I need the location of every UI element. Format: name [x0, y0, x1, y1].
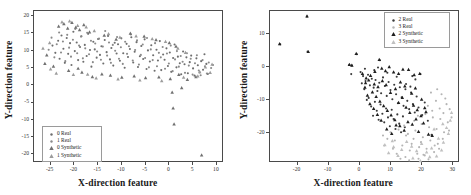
data-point-dot [68, 47, 70, 49]
data-point-triangle [109, 74, 113, 77]
data-point-triangle [52, 65, 56, 68]
data-point-dot [144, 57, 146, 59]
legend-label: 3 Real [399, 23, 413, 29]
data-point-dot [126, 53, 128, 55]
data-point-dot [395, 76, 397, 78]
legend-label: 2 Real [399, 16, 413, 22]
data-point-triangle [441, 122, 445, 125]
data-point-dot [372, 87, 374, 89]
legend-item[interactable]: 3 Synthetic [388, 37, 445, 44]
data-point-dot [381, 135, 383, 137]
data-point-dot [435, 128, 437, 130]
data-point-dot [195, 57, 197, 59]
data-point-triangle [72, 73, 76, 76]
data-point-dot [180, 55, 182, 57]
data-point-dot [152, 54, 154, 56]
data-point-triangle [41, 47, 45, 50]
legend-label: 1 Synthetic [57, 152, 81, 158]
data-point-dot [381, 76, 383, 78]
data-point-triangle [57, 24, 61, 27]
data-point-triangle [78, 28, 82, 31]
data-point-triangle [66, 27, 70, 30]
data-point-triangle [150, 37, 154, 40]
data-point-dot [86, 55, 88, 57]
data-point-dot [448, 108, 450, 110]
data-point-dot [51, 45, 53, 47]
data-point-dot [426, 105, 428, 107]
data-point-triangle [394, 123, 398, 126]
data-point-triangle [93, 29, 97, 32]
data-point-dot [147, 49, 149, 51]
data-point-dot [385, 107, 387, 109]
data-point-dot [118, 58, 120, 60]
data-point-dot [385, 95, 387, 97]
data-point-triangle [129, 31, 133, 34]
data-point-triangle [118, 36, 122, 39]
data-point-dot [404, 88, 406, 90]
data-point-dot [363, 68, 365, 70]
data-point-dot [169, 51, 171, 53]
data-point-dot [94, 48, 96, 50]
data-point-dot [412, 138, 414, 140]
data-point-dot [189, 61, 191, 63]
data-point-triangle [421, 121, 425, 124]
data-point-dot [128, 45, 130, 47]
data-point-dot [159, 40, 161, 42]
data-point-dot [406, 133, 408, 135]
data-point-dot [98, 38, 100, 40]
data-point-dot [165, 47, 167, 49]
data-point-dot [58, 31, 60, 33]
data-point-dot [386, 116, 388, 118]
data-point-dot [396, 113, 398, 115]
data-point-dot [401, 144, 403, 146]
data-point-dot [436, 88, 438, 90]
data-point-dot [152, 59, 154, 61]
data-point-triangle [157, 75, 161, 78]
data-point-dot [403, 125, 405, 127]
data-point-dot [399, 158, 401, 160]
data-point-triangle [368, 102, 372, 105]
data-point-dot [397, 129, 399, 131]
data-point-triangle [432, 127, 436, 130]
data-point-dot [106, 51, 108, 53]
data-point-dot [359, 71, 361, 73]
data-point-dot [102, 46, 104, 48]
data-point-dot [175, 66, 177, 68]
data-point-dot [406, 100, 408, 102]
data-point-dot [182, 61, 184, 63]
data-point-dot [69, 42, 71, 44]
data-point-dot [429, 139, 431, 141]
data-point-dot [200, 74, 202, 76]
data-point-triangle [76, 24, 80, 27]
data-point-triangle [414, 117, 418, 120]
data-point-dot [112, 44, 114, 46]
data-point-dot [84, 47, 86, 49]
legend-label: 0 Synthetic [57, 144, 81, 150]
data-point-dot [408, 108, 410, 110]
legend-right: 2 Real3 Real2 Synthetic3 Synthetic [384, 12, 450, 48]
data-point-dot [156, 65, 158, 67]
data-point-dot [439, 118, 441, 120]
data-point-dot [62, 40, 64, 42]
data-point-triangle [406, 120, 410, 123]
data-point-dot [404, 135, 406, 137]
data-point-triangle [45, 53, 49, 56]
data-point-triangle [371, 107, 375, 110]
data-point-triangle [384, 83, 388, 86]
x-axis-label-right: X-direction feature [236, 178, 471, 188]
data-point-triangle [368, 74, 372, 77]
data-point-triangle [177, 73, 181, 76]
data-point-dot [418, 146, 420, 148]
data-point-triangle [100, 72, 104, 75]
data-point-dot [438, 148, 440, 150]
data-point-triangle [370, 90, 374, 93]
data-point-triangle [182, 76, 186, 79]
data-point-triangle [55, 71, 59, 74]
data-point-triangle [160, 79, 164, 82]
data-point-dot [90, 66, 92, 68]
data-point-dot [92, 61, 94, 63]
legend-item[interactable]: 1 Synthetic [46, 151, 97, 158]
data-point-triangle [393, 87, 397, 90]
data-point-dot [120, 46, 122, 48]
data-point-dot [154, 70, 156, 72]
